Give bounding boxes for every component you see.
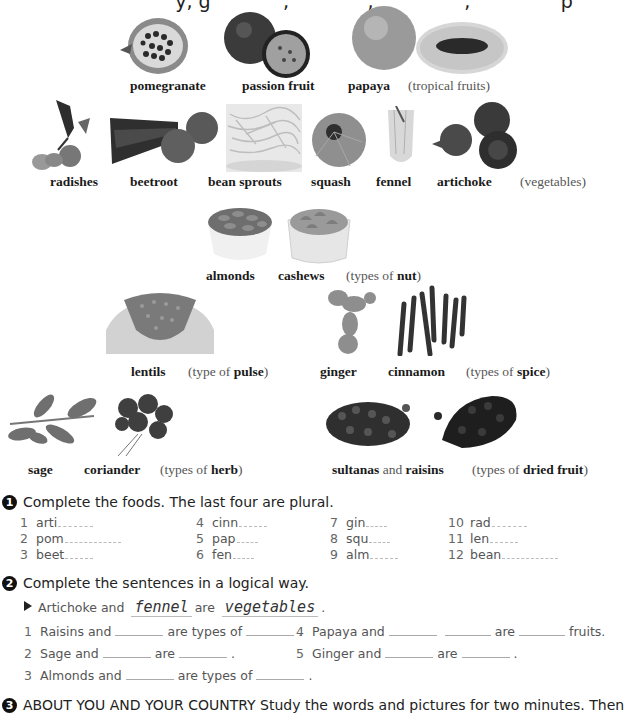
sentence-number: 2 [24,646,40,661]
item-stem: cinn [212,515,238,530]
cashews-image [286,204,352,266]
category-bold: herb [211,462,238,477]
category-prefix: (type of [188,364,234,379]
exercise1-item: 7gin [330,515,387,530]
exercise1-item: 9alm [330,547,398,562]
letter-blanks[interactable] [65,532,121,543]
cinnamon-image [394,284,472,356]
sentence-text: Papaya and [312,624,385,639]
answer-blank[interactable] [519,623,565,636]
category-suffix: ) [264,364,269,379]
label-passion-fruit: passion fruit [242,78,314,94]
sentence-text: fruits. [569,624,605,639]
label-pomegranate: pomegranate [130,78,206,94]
sentence-text: . [308,668,312,683]
exercise1-item: 3beet [20,547,93,562]
answer-blank[interactable] [445,623,491,636]
sentence-3: 3Almonds andare types of. [24,667,312,683]
exercise1-item: 4cinn [196,515,267,530]
item-number: 5 [196,531,212,546]
letter-blanks[interactable] [65,548,93,559]
category-prefix: (types of [472,462,523,477]
category-prefix: (types of [160,462,211,477]
answer-blank[interactable] [256,667,304,680]
item-stem: squ [346,531,368,546]
exercise1-item: 10rad [448,515,527,530]
item-stem: rad [470,515,491,530]
item-number: 6 [196,547,212,562]
label-fennel: fennel [376,174,411,190]
sentence-text: are [437,646,457,661]
example-answer-2: vegetables [222,598,318,617]
label-joiner: and [383,462,403,477]
category-suffix: ) [238,462,243,477]
exercise1-item: 8squ [330,531,390,546]
label-lentils: lentils [131,364,166,380]
sentence-text: are types of [178,668,253,683]
exercise1-item: 11len [448,531,518,546]
exercise1-item: 1arti [20,515,93,530]
answer-blank[interactable] [389,623,437,636]
letter-blanks[interactable] [492,516,527,527]
category-suffix: ) [546,364,551,379]
label-sage: sage [28,462,53,478]
category-prefix: (types of [466,364,517,379]
answer-blank[interactable] [385,645,433,658]
letter-blanks[interactable] [58,516,93,527]
item-number: 10 [448,515,470,530]
answer-blank[interactable] [103,645,151,658]
letter-blanks[interactable] [366,516,387,527]
item-stem: alm [346,547,369,562]
sentence-number: 3 [24,668,40,683]
sentence-number: 1 [24,624,40,639]
sentence-text: are [155,646,175,661]
item-number: 4 [196,515,212,530]
bean-sprouts-image [226,104,302,172]
item-stem: len [470,531,489,546]
label-raisins: raisins [406,462,444,477]
letter-blanks[interactable] [233,548,254,559]
sentence-text: Ginger and [312,646,381,661]
label-ginger: ginger [320,364,357,380]
sentence-number: 5 [296,646,312,661]
exercise1-item: 6fen [196,547,254,562]
beetroot-image [108,108,220,170]
category-vegetables: (vegetables) [520,174,586,190]
exercise-number-badge: 3 [2,698,17,713]
sentence-text: Almonds and [40,668,122,683]
label-cinnamon: cinnamon [388,364,445,380]
item-number: 1 [20,515,36,530]
answer-blank[interactable] [126,667,174,680]
letter-blanks[interactable] [369,532,390,543]
category-bold: dried fruit [523,462,583,477]
item-stem: beet [36,547,64,562]
answer-blank[interactable] [115,623,163,636]
item-stem: arti [36,515,57,530]
label-bean-sprouts: bean sprouts [208,174,282,190]
label-almonds: almonds [206,268,255,284]
exercise1-heading: 1Complete the foods. The last four are p… [2,494,334,510]
lentils-image [106,290,214,354]
exercise1-instruction: Complete the foods. The last four are pl… [23,494,334,510]
exercise3-instruction: ABOUT YOU AND YOUR COUNTRY Study the wor… [23,697,624,713]
category-suffix: ) [583,462,588,477]
sentence-text: Raisins and [40,624,111,639]
ginger-image [322,288,378,356]
category-herbs: (types of herb) [160,462,243,478]
item-number: 8 [330,531,346,546]
letter-blanks[interactable] [370,548,398,559]
label-sultanas-and-raisins: sultanas and raisins [332,462,444,478]
label-squash: squash [311,174,351,190]
answer-blank[interactable] [179,645,227,658]
exercise-number-badge: 2 [2,576,17,591]
exercise3-heading: 3ABOUT YOU AND YOUR COUNTRY Study the wo… [2,697,624,713]
letter-blanks[interactable] [502,548,558,559]
answer-blank[interactable] [246,623,294,636]
exercise1-item: 5pap [196,531,258,546]
label-beetroot: beetroot [130,174,178,190]
letter-blanks[interactable] [237,532,258,543]
answer-blank[interactable] [462,645,510,658]
letter-blanks[interactable] [239,516,267,527]
sentence-2: 2Sage andare. [24,645,235,661]
letter-blanks[interactable] [490,532,518,543]
